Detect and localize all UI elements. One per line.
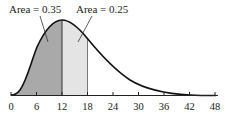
shaded-region-0-12 [11, 20, 62, 95]
tick-label: 48 [210, 101, 221, 112]
tick-label: 12 [57, 101, 68, 112]
density-chart: 0 6 12 18 24 30 36 42 48 Area = 0.35 Are… [0, 0, 230, 119]
tick-label: 30 [133, 101, 144, 112]
tick-label: 0 [8, 101, 13, 112]
x-tick-labels: 0 6 12 18 24 30 36 42 48 [8, 101, 220, 112]
shaded-region-12-18 [62, 20, 87, 95]
tick-label: 18 [82, 101, 93, 112]
tick-label: 24 [108, 101, 119, 112]
area-label-right: Area = 0.25 [76, 3, 129, 15]
tick-label: 36 [159, 101, 170, 112]
area-label-left: Area = 0.35 [9, 3, 62, 15]
tick-label: 42 [184, 101, 195, 112]
tick-label: 6 [34, 101, 39, 112]
